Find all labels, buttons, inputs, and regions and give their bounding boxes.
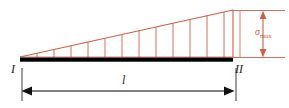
beam-bar (20, 58, 233, 62)
length-arrowhead-left (22, 86, 33, 95)
label-sigma-max: σmax (255, 27, 272, 40)
beam-stress-diagram: I II l σmax (0, 0, 289, 108)
label-length-dimension: l (122, 74, 125, 86)
sigma-arrowhead-up (260, 11, 267, 19)
load-slope-line (20, 10, 233, 57)
label-left-end: I (11, 63, 15, 75)
load-hatch-lines (37, 12, 224, 57)
label-right-end: II (235, 63, 243, 75)
distributed-load-triangle (20, 10, 233, 57)
diagram-canvas (0, 0, 289, 108)
sigma-arrowhead-down (260, 49, 267, 57)
length-dimension (22, 68, 237, 101)
length-arrowhead-right (224, 86, 235, 95)
sigma-subscript: max (260, 32, 272, 40)
